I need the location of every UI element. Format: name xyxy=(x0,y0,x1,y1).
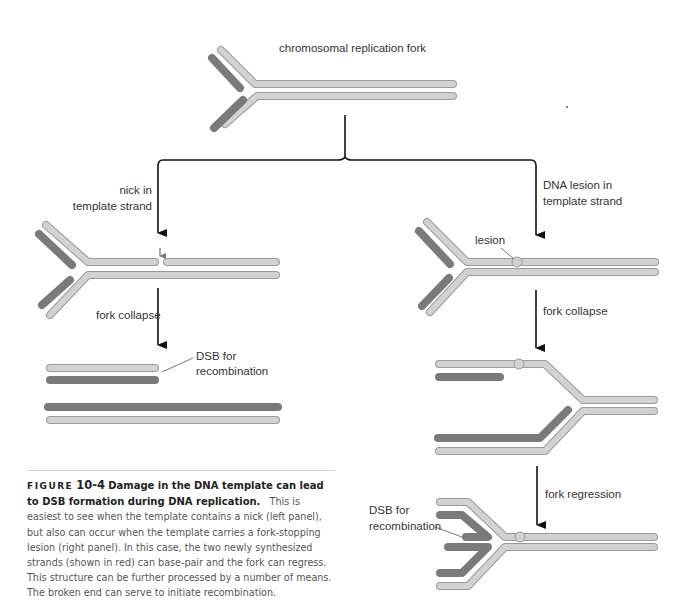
left-fork-collapse-label: fork collapse xyxy=(96,308,161,323)
caption-figure-word: FIGURE xyxy=(27,481,73,491)
lesion-label: lesion xyxy=(475,233,505,248)
right-fork-with-lesion xyxy=(419,222,655,348)
lesion-branch-label-line1: DNA lesion in xyxy=(543,178,612,193)
stray-dot xyxy=(566,106,568,108)
right-regressed-fork xyxy=(435,502,654,586)
branch-arrows xyxy=(158,115,536,235)
right-dsb-label-line2: recombination xyxy=(369,519,441,534)
top-replication-fork xyxy=(212,50,453,128)
caption-body: This is easiest to see when the template… xyxy=(27,496,331,598)
caption-figure-number: 10-4 xyxy=(76,478,105,492)
top-fork-label: chromosomal replication fork xyxy=(279,41,426,56)
right-fork-collapse-label: fork collapse xyxy=(543,304,608,319)
nick-label-line1: nick in xyxy=(82,183,152,198)
right-dsb-label-line1: DSB for xyxy=(369,503,409,518)
left-dsb-label-line1: DSB for xyxy=(196,349,236,364)
caption-divider xyxy=(27,470,335,471)
left-fork-with-nick xyxy=(39,225,276,345)
nick-label-line2: template strand xyxy=(52,199,152,214)
fork-regression-label: fork regression xyxy=(545,487,621,502)
lesion-branch-label-line2: template strand xyxy=(543,194,622,209)
figure-caption: FIGURE 10-4 Damage in the DNA template c… xyxy=(27,478,335,601)
left-dsb-label-line2: recombination xyxy=(196,364,268,379)
